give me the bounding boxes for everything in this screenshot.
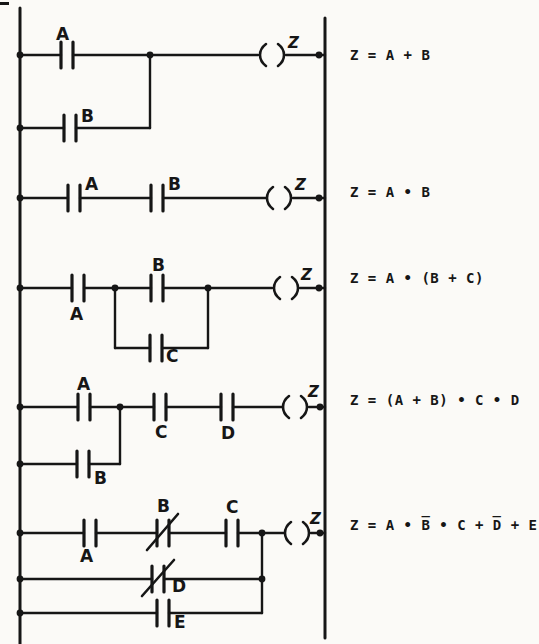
rung-5: A B C Z D [17,496,325,632]
junction-dot [17,195,24,202]
contact-A [61,42,73,68]
coil-arc [260,44,266,66]
junction-dot [316,285,323,292]
contact-label: E [174,612,186,632]
rung-2: A B Z [17,174,325,211]
contact-B [151,275,163,301]
junction-dot [259,576,266,583]
equation-1: Z = A + B [350,47,430,63]
contact-label: A [85,174,99,194]
coil-Z [260,44,284,66]
equation-4: Z = (A + B) • C • D [350,392,520,408]
rung-3: A B Z C [17,255,325,366]
contact-label: A [56,24,70,44]
coil-label: Z [300,266,313,284]
coil-arc [274,277,280,299]
contact-B [77,451,89,477]
junction-dot [117,404,124,411]
contact-D [221,394,233,420]
contact-label: B [152,255,165,275]
junction-dot [317,530,324,537]
coil-label: Z [294,176,307,194]
coil-Z [283,396,307,418]
junction-dot [205,285,212,292]
contact-C [150,335,162,361]
contact-label: D [221,423,235,443]
contact-C [226,520,238,546]
coil-arc [283,396,289,418]
coil-arc [292,277,298,299]
contact-label: B [94,468,107,488]
contact-A [78,394,90,420]
contact-C [154,394,166,420]
contact-A [68,185,80,211]
equation-5: Z = A • B̅ • C + D̅ + E [350,515,538,533]
coil-Z [274,277,298,299]
equation-3: Z = A • (B + C) [350,270,484,286]
contact-label: A [77,374,91,394]
ladder-diagram: A Z B A B [0,0,539,644]
coil-label: Z [287,34,300,52]
contact-A [72,275,84,301]
contact-label: B [81,106,94,126]
junction-dot [317,404,324,411]
junction-dot [17,404,24,411]
junction-dot [112,285,119,292]
coil-arc [278,44,284,66]
junction-dot [17,610,24,617]
junction-dot [17,461,24,468]
junction-dot [147,52,154,59]
junction-dot [17,285,24,292]
contact-E [157,600,169,626]
coil-Z [267,187,291,209]
equations: Z = A + B Z = A • B Z = A • (B + C) Z = … [350,47,538,533]
rung-4: A C D Z B [17,374,325,488]
coil-arc [301,396,307,418]
junction-dot [316,195,323,202]
contact-label: C [226,497,238,517]
contact-label: B [157,496,170,516]
contact-label: C [155,422,167,442]
coil-arc [303,522,309,544]
junction-dot [259,530,266,537]
junction-dot [17,52,24,59]
junction-dot [17,125,24,132]
contact-label: B [168,174,181,194]
coil-label: Z [307,383,320,401]
equation-2: Z = A • B [350,184,430,200]
coil-label: Z [309,510,322,528]
contact-A [84,520,96,546]
junction-dot [17,576,24,583]
rung-1: A Z B [17,24,325,141]
coil-arc [267,187,273,209]
coil-Z [285,522,309,544]
junction-dot [17,530,24,537]
contact-B [64,115,76,141]
ladder-diagram-page: A Z B A B [0,0,539,644]
contact-B [151,185,163,211]
junction-dot [316,52,323,59]
coil-arc [285,522,291,544]
corner-mark [0,2,9,5]
contact-label: A [70,304,84,324]
contact-label: A [80,546,94,566]
coil-arc [285,187,291,209]
